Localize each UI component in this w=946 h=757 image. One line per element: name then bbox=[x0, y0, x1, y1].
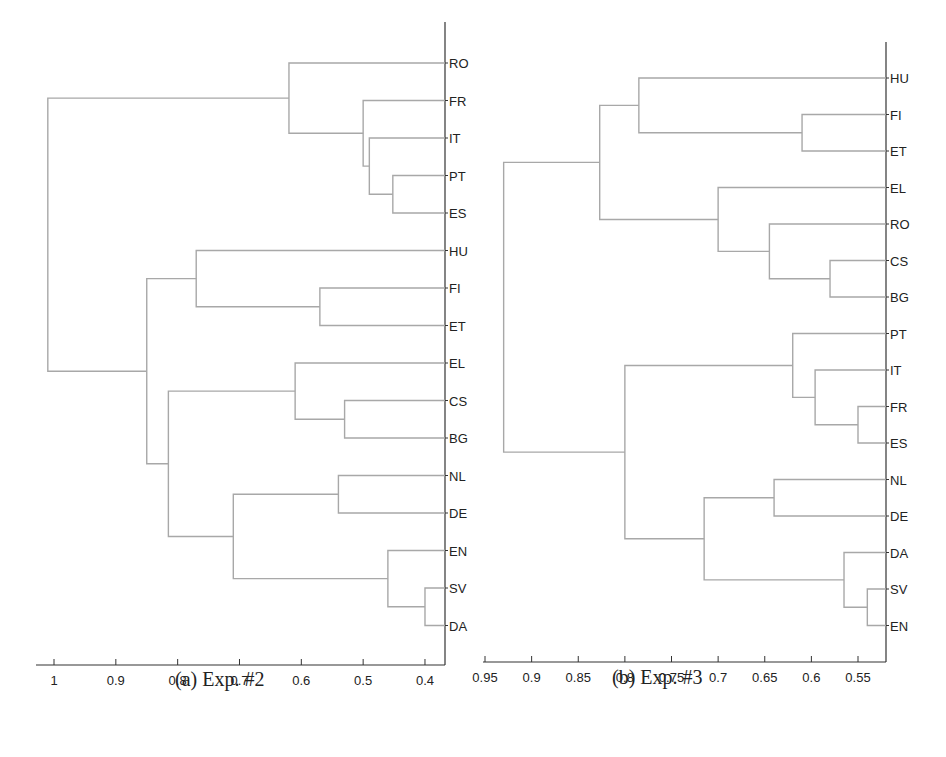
dendrogram-link bbox=[504, 162, 625, 452]
dendrogram-link bbox=[867, 589, 886, 626]
x-tick-label: 0.6 bbox=[802, 670, 820, 685]
leaf-label-ro: RO bbox=[449, 56, 469, 71]
leaf-label-fi: FI bbox=[890, 108, 902, 123]
leaf-label-fr: FR bbox=[449, 94, 466, 109]
dendrogram-link bbox=[233, 494, 388, 578]
caption-exp2: (a) Exp. #2 bbox=[175, 668, 264, 691]
leaf-label-da: DA bbox=[449, 619, 467, 634]
leaf-label-et: ET bbox=[449, 319, 466, 334]
dendrogram-link bbox=[289, 63, 445, 133]
dendrogram-link bbox=[147, 279, 196, 464]
leaf-label-sv: SV bbox=[449, 581, 467, 596]
x-tick-label: 0.95 bbox=[472, 670, 497, 685]
leaf-label-hu: HU bbox=[449, 244, 468, 259]
leaf-label-sv: SV bbox=[890, 582, 908, 597]
leaf-label-de: DE bbox=[890, 509, 908, 524]
leaf-label-nl: NL bbox=[890, 473, 907, 488]
dendrogram-link bbox=[858, 407, 886, 444]
leaf-label-cs: CS bbox=[449, 394, 467, 409]
x-tick-label: 0.65 bbox=[752, 670, 777, 685]
leaf-label-da: DA bbox=[890, 546, 908, 561]
dendrogram-link bbox=[48, 98, 289, 371]
leaf-label-et: ET bbox=[890, 144, 907, 159]
dendrogram-link bbox=[320, 288, 445, 326]
x-tick-label: 1 bbox=[50, 673, 57, 688]
dendrogram-link bbox=[625, 365, 793, 538]
leaf-label-bg: BG bbox=[449, 431, 468, 446]
dendrogram-link bbox=[393, 176, 445, 214]
dendrogram-link bbox=[718, 188, 886, 252]
x-tick-label: 0.9 bbox=[523, 670, 541, 685]
leaf-label-el: EL bbox=[449, 356, 465, 371]
leaf-label-nl: NL bbox=[449, 469, 466, 484]
leaf-label-el: EL bbox=[890, 181, 906, 196]
caption-exp3: (b) Exp. #3 bbox=[612, 666, 703, 689]
dendrogram-link bbox=[196, 251, 445, 307]
dendrogram-link bbox=[425, 588, 445, 626]
leaf-label-cs: CS bbox=[890, 254, 908, 269]
x-tick-label: 0.6 bbox=[292, 673, 310, 688]
dendrogram-link bbox=[830, 261, 886, 298]
leaf-label-it: IT bbox=[449, 131, 461, 146]
dendrogram-link bbox=[844, 553, 886, 608]
dendrogram-link bbox=[815, 370, 886, 425]
leaf-label-ro: RO bbox=[890, 217, 910, 232]
dendrogram-link bbox=[369, 138, 445, 194]
dendrogram-link bbox=[802, 115, 886, 152]
x-tick-label: 0.5 bbox=[354, 673, 372, 688]
dendrogram-link bbox=[338, 476, 445, 514]
dendrogram-figure: 10.90.80.70.60.50.4ROFRITPTESHUFIETELCSB… bbox=[0, 0, 946, 757]
leaf-label-pt: PT bbox=[890, 327, 907, 342]
leaf-label-hu: HU bbox=[890, 71, 909, 86]
dendrogram-link bbox=[639, 78, 886, 133]
dendrogram-link bbox=[168, 391, 295, 536]
dendrogram-link bbox=[295, 363, 445, 419]
dendrogram-link bbox=[345, 401, 445, 439]
dendrogram-exp2: 10.90.80.70.60.50.4ROFRITPTESHUFIETELCSB… bbox=[36, 22, 469, 688]
leaf-label-es: ES bbox=[890, 436, 908, 451]
dendrogram-link bbox=[600, 105, 718, 219]
x-tick-label: 0.55 bbox=[845, 670, 870, 685]
leaf-label-fr: FR bbox=[890, 400, 907, 415]
x-tick-label: 0.7 bbox=[709, 670, 727, 685]
x-tick-label: 0.85 bbox=[566, 670, 591, 685]
leaf-label-fi: FI bbox=[449, 281, 461, 296]
leaf-label-bg: BG bbox=[890, 290, 909, 305]
dendrogram-link bbox=[793, 334, 886, 398]
dendrogram-link bbox=[388, 551, 445, 607]
dendrogram-link bbox=[774, 480, 886, 517]
dendrogram-link bbox=[363, 101, 445, 167]
leaf-label-en: EN bbox=[890, 619, 908, 634]
leaf-label-pt: PT bbox=[449, 169, 466, 184]
dendrogram-exp3: 0.950.90.850.80.750.70.650.60.55HUFIETEL… bbox=[472, 42, 909, 685]
x-tick-label: 0.9 bbox=[107, 673, 125, 688]
x-tick-label: 0.4 bbox=[416, 673, 434, 688]
leaf-label-de: DE bbox=[449, 506, 467, 521]
leaf-label-es: ES bbox=[449, 206, 467, 221]
leaf-label-en: EN bbox=[449, 544, 467, 559]
dendrogram-link bbox=[769, 224, 886, 279]
leaf-label-it: IT bbox=[890, 363, 902, 378]
